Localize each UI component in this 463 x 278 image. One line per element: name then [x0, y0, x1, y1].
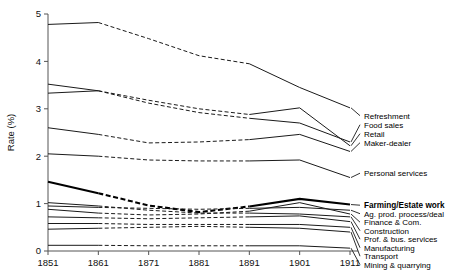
series-line	[48, 23, 350, 108]
y-axis-label: Rate (%)	[5, 114, 16, 151]
y-tick-label: 4	[36, 56, 41, 67]
series-line	[48, 226, 350, 232]
leader-line	[351, 173, 360, 177]
y-tick-label: 5	[36, 8, 41, 19]
series-label: Personal services	[364, 169, 427, 178]
x-tick-label: 1901	[289, 257, 310, 268]
x-tick-label: 1881	[188, 257, 209, 268]
y-tick-label: 0	[36, 245, 41, 256]
series-labels: RefreshmentFood salesRetailMaker-dealerP…	[364, 112, 445, 270]
x-tick-label: 1861	[88, 257, 109, 268]
series-label: Refreshment	[364, 112, 411, 121]
leader-line	[351, 205, 360, 206]
y-tick-label: 2	[36, 151, 41, 162]
series-line	[48, 154, 350, 178]
line-chart-plot: 0123451851186118711881189119011911Rate (…	[0, 0, 463, 278]
y-tick-label: 3	[36, 103, 41, 114]
leader-line	[351, 108, 360, 116]
series-line	[48, 245, 350, 248]
series-line	[48, 91, 350, 146]
chart-container: 0123451851186118711881189119011911Rate (…	[0, 0, 463, 278]
x-tick-label: 1891	[239, 257, 260, 268]
x-tick-label: 1851	[37, 257, 58, 268]
chart-series-lines	[48, 23, 350, 249]
leader-line	[351, 210, 360, 213]
series-label: Mining & quarrying	[364, 261, 431, 270]
series-line	[48, 128, 350, 152]
x-tick-label: 1871	[138, 257, 159, 268]
series-line	[48, 203, 350, 217]
series-label: Retail	[364, 130, 385, 139]
series-leader-lines	[351, 108, 360, 265]
series-label: Food sales	[364, 121, 403, 130]
series-line	[48, 224, 350, 228]
series-line	[48, 216, 350, 222]
series-line	[48, 206, 350, 210]
series-label: Maker-dealer	[364, 139, 411, 148]
y-tick-label: 1	[36, 198, 41, 209]
leader-line	[351, 214, 360, 222]
